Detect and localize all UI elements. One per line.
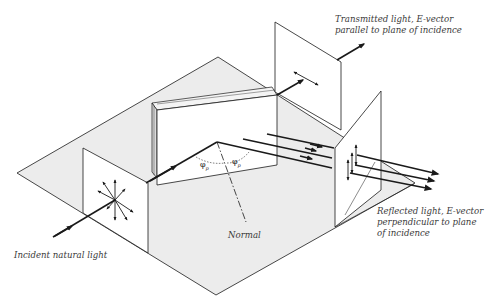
reflected-label-line3: of incidence xyxy=(377,228,430,238)
normal-label: Normal xyxy=(228,230,261,240)
reflected-label-line1: Reflected light, E-vector xyxy=(377,206,483,216)
angle-subscript: p xyxy=(238,162,241,168)
transmitted-label-line2: parallel to plane of incidence xyxy=(335,25,462,35)
incident-label: Incident natural light xyxy=(14,250,107,260)
brewster-angle-incident: φp xyxy=(200,160,209,171)
angle-subscript: p xyxy=(206,165,209,171)
brewster-angle-diagram: Transmitted light, E-vector parallel to … xyxy=(0,0,493,297)
reflected-label-line2: perpendicular to plane xyxy=(377,217,476,227)
transmitted-label-line1: Transmitted light, E-vector xyxy=(335,14,453,24)
brewster-angle-reflected: φp xyxy=(232,157,241,168)
